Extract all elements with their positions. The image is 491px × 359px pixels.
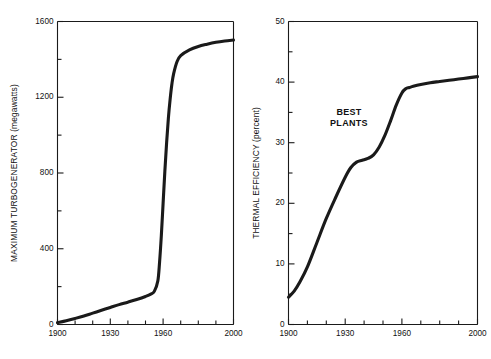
x-tick-label: 1960 — [393, 329, 412, 338]
x-tick-label: 2000 — [468, 329, 487, 338]
right-tick-group — [289, 22, 478, 325]
y-tick-label: 800 — [40, 168, 54, 177]
right-axes-group — [289, 22, 478, 325]
y-tick-label: 30 — [275, 138, 285, 147]
figure-root: 0400800120016001900193019602000 MAXIMUM … — [0, 0, 491, 359]
turbogenerator-curve — [58, 40, 234, 323]
x-tick-label: 2000 — [224, 329, 243, 338]
y-tick-label: 0 — [49, 320, 54, 329]
right-annotation-group: BESTPLANTS — [330, 107, 368, 128]
left-y-axis-title: MAXIMUM TURBOGENERATOR (megawatts) — [9, 84, 19, 262]
thermal-efficiency-chart-svg: 010203040501900193019602000 THERMAL EFFI… — [245, 0, 491, 359]
x-tick-label: 1900 — [48, 329, 67, 338]
y-tick-label: 400 — [40, 244, 54, 253]
x-tick-label: 1930 — [336, 329, 355, 338]
y-tick-label: 10 — [275, 259, 285, 268]
left-tick-label-group: 0400800120016001900193019602000 — [35, 17, 243, 338]
chart-panel-thermal-efficiency: 010203040501900193019602000 THERMAL EFFI… — [245, 0, 491, 359]
left-tick-group — [58, 22, 234, 325]
best-plants-label: BEST — [336, 107, 361, 117]
y-tick-label: 50 — [275, 17, 285, 26]
y-tick-label: 40 — [275, 77, 285, 86]
x-tick-label: 1900 — [279, 329, 298, 338]
x-tick-label: 1930 — [101, 329, 120, 338]
turbogenerator-chart-svg: 0400800120016001900193019602000 MAXIMUM … — [0, 0, 246, 359]
y-tick-label: 20 — [275, 198, 285, 207]
y-tick-label: 0 — [280, 320, 285, 329]
y-tick-label: 1600 — [35, 17, 54, 26]
chart-panel-turbogenerator: 0400800120016001900193019602000 MAXIMUM … — [0, 0, 246, 359]
left-axes-group — [58, 22, 234, 325]
y-tick-label: 1200 — [35, 92, 54, 101]
x-tick-label: 1960 — [154, 329, 173, 338]
thermal-efficiency-curve — [289, 77, 478, 298]
best-plants-label: PLANTS — [330, 118, 368, 128]
right-tick-label-group: 010203040501900193019602000 — [275, 17, 487, 338]
right-y-axis-title: THERMAL EFFICIENCY (percent) — [251, 107, 261, 239]
